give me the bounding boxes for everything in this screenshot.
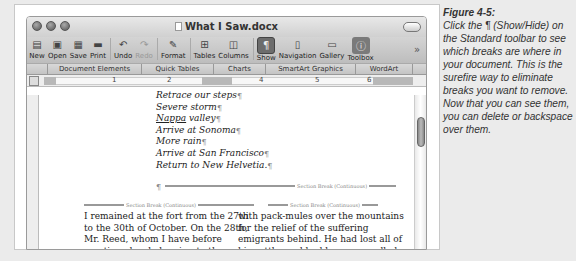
- show-hide-button[interactable]: ¶Show: [257, 37, 276, 63]
- tab-quick-tables[interactable]: Quick Tables: [141, 64, 213, 74]
- section-break-label: Section Break (Continuous): [290, 202, 360, 208]
- ruler-number: 6: [367, 76, 371, 84]
- toolbox-icon: ⓘ: [352, 37, 370, 54]
- columns-button[interactable]: ◫Columns: [218, 37, 248, 61]
- format-painter-icon: ✎: [165, 37, 181, 52]
- misspelled-word: Nappa: [156, 113, 186, 123]
- redo-icon: ↷: [136, 37, 152, 52]
- vertical-scrollbar[interactable]: [414, 95, 426, 249]
- vertical-ruler[interactable]: [27, 95, 39, 249]
- right-margin-shade: [373, 77, 413, 85]
- paragraph-mark: ¶: [217, 103, 222, 112]
- text-column-2: with pack-mules over the mountains for t…: [238, 211, 408, 250]
- print-button[interactable]: ▬Print: [90, 37, 106, 61]
- new-button[interactable]: ▤New: [29, 37, 45, 61]
- list-item: Arrive at Sonoma¶: [156, 125, 272, 137]
- navigation-icon: ▯: [290, 37, 306, 52]
- tab-document-elements[interactable]: Document Elements: [47, 64, 141, 74]
- caption-body: Click the ¶ (Show/Hide) on the Standard …: [443, 19, 573, 136]
- standard-toolbar: ▤New ▣Open ▦Save ▬Print ↶Undo ↷Redo ✎For…: [27, 37, 426, 63]
- list-item: Nappa valley¶: [156, 113, 272, 125]
- bullet-list: Retrace our steps¶ Severe storm¶ Nappa v…: [156, 97, 272, 171]
- document-icon: [175, 22, 182, 31]
- ruler-number: 5: [315, 76, 319, 84]
- list-item: More rain¶: [156, 136, 272, 148]
- redo-button[interactable]: ↷Redo: [135, 37, 153, 61]
- list-item: Severe storm¶: [156, 102, 272, 114]
- scrollbar-thumb[interactable]: [417, 117, 425, 147]
- paragraph-mark: ¶: [156, 182, 161, 191]
- figure-caption: Figure 4-5: Click the ¶ (Show/Hide) on t…: [443, 6, 573, 136]
- toolbar-separator: [253, 38, 254, 60]
- text-column-1: I remained at the fort from the 27th to …: [84, 211, 254, 250]
- column-gap-shade: [202, 77, 232, 85]
- print-icon: ▬: [90, 37, 106, 52]
- format-button[interactable]: ✎Format: [161, 37, 186, 61]
- left-margin-shade: [44, 77, 56, 85]
- list-item: Arrive at San Francisco¶: [156, 148, 272, 160]
- toolbar-separator: [190, 38, 191, 60]
- section-break-1: ¶ Section Break (Continuous): [156, 182, 396, 190]
- toolbox-button[interactable]: ⓘToolbox: [347, 37, 373, 63]
- save-icon: ▦: [70, 37, 86, 52]
- gallery-button[interactable]: ▭Gallery: [319, 37, 344, 61]
- toolbar-separator: [110, 38, 111, 60]
- title-bar: What I Saw.docx: [27, 17, 426, 37]
- tables-button[interactable]: ⊞Tables: [194, 37, 216, 61]
- document-page[interactable]: Retrace our steps¶ Severe storm¶ Nappa v…: [40, 95, 413, 249]
- window-title: What I Saw.docx: [27, 21, 426, 32]
- paragraph-mark: ¶: [216, 114, 221, 123]
- tab-smartart-graphics[interactable]: SmartArt Graphics: [265, 64, 355, 74]
- elements-gallery-tabs: Document Elements Quick Tables Charts Sm…: [27, 63, 426, 75]
- tab-charts[interactable]: Charts: [213, 64, 265, 74]
- pilcrow-icon: ¶: [257, 37, 275, 54]
- horizontal-ruler[interactable]: 1 2 4 5 6: [27, 75, 426, 87]
- tab-wordart[interactable]: WordArt: [355, 64, 413, 74]
- paragraph-mark: ¶: [237, 91, 242, 100]
- open-button[interactable]: ▣Open: [48, 37, 67, 61]
- toolbar-toggle-button[interactable]: [403, 22, 421, 32]
- ruler-number: 4: [259, 76, 263, 84]
- tables-icon: ⊞: [196, 37, 212, 52]
- paragraph-mark: ¶: [201, 137, 206, 146]
- toolbar-separator: [157, 38, 158, 60]
- ruler-number: 1: [112, 76, 116, 84]
- ruler-number: 2: [167, 76, 171, 84]
- paragraph-mark: ¶: [267, 161, 272, 170]
- paragraph-mark: ¶: [264, 149, 269, 158]
- save-button[interactable]: ▦Save: [70, 37, 87, 61]
- section-break-2: Section Break (Continuous): [84, 201, 254, 209]
- section-break-2-continued: Section Break (Continuous): [268, 201, 378, 209]
- caption-heading: Figure 4-5:: [443, 6, 573, 19]
- undo-button[interactable]: ↶Undo: [114, 37, 132, 61]
- toolbar-overflow-button[interactable]: »: [414, 44, 420, 55]
- columns-icon: ◫: [226, 37, 242, 52]
- undo-icon: ↶: [115, 37, 131, 52]
- navigation-button[interactable]: ▯Navigation: [279, 37, 317, 61]
- open-icon: ▣: [49, 37, 65, 52]
- paragraph-mark: ¶: [236, 126, 241, 135]
- section-break-label: Section Break (Continuous): [126, 202, 196, 208]
- list-item: Return to New Helvetia.¶: [156, 160, 272, 172]
- gallery-icon: ▭: [324, 37, 340, 52]
- list-item: Retrace our steps¶: [156, 90, 272, 102]
- view-toggle-icon[interactable]: [29, 76, 39, 86]
- word-window: What I Saw.docx ▤New ▣Open ▦Save ▬Print …: [26, 16, 427, 250]
- new-document-icon: ▤: [29, 37, 45, 52]
- section-break-label: Section Break (Continuous): [297, 183, 367, 189]
